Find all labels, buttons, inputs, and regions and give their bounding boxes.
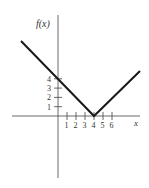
x-tick-label: 6 <box>110 121 114 130</box>
graph: f(x) x 1 2 3 4 5 6 1 2 3 4 <box>0 0 149 188</box>
y-tick-label: 4 <box>47 75 51 84</box>
x-tick-label: 3 <box>83 121 87 130</box>
y-tick-label: 1 <box>47 103 51 112</box>
x-tick-label: 2 <box>74 121 78 130</box>
x-tick-label: 4 <box>92 121 96 130</box>
x-tick-label: 1 <box>65 121 69 130</box>
x-axis-label: x <box>133 118 138 128</box>
y-axis-label: f(x) <box>36 18 51 30</box>
y-tick-label: 2 <box>47 93 51 102</box>
y-tick-label: 3 <box>47 84 51 93</box>
function-line <box>21 41 140 116</box>
x-tick-label: 5 <box>101 121 105 130</box>
